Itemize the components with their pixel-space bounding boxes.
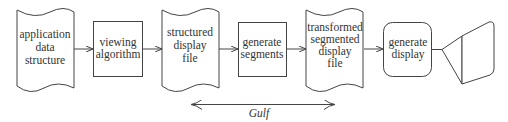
gulf-indicator: Gulf — [191, 105, 335, 121]
node-label-line: file — [327, 57, 342, 69]
node-label-line: structured — [167, 26, 213, 38]
node-label-line: file — [182, 52, 197, 64]
node-application-data-structure: application data structure — [17, 9, 74, 92]
node-label-line: transformed — [307, 21, 363, 33]
node-label-line: algorithm — [96, 48, 141, 61]
node-label-line: application — [19, 28, 70, 41]
node-label-line: display — [391, 48, 424, 61]
node-label-line: structure — [25, 54, 65, 66]
node-label-line: data — [35, 41, 54, 53]
node-generate-display: generate display — [384, 23, 432, 77]
node-structured-display-file: structured display file — [162, 9, 219, 92]
node-label-line: display — [173, 39, 206, 52]
node-label-line: segments — [241, 48, 284, 61]
display-monitor-icon — [442, 22, 494, 84]
pipeline-diagram: application data structure viewing algor… — [0, 0, 508, 122]
node-viewing-algorithm: viewing algorithm — [94, 22, 143, 77]
gulf-label: Gulf — [249, 107, 271, 120]
node-transformed-segmented-display-file: transformed segmented display file — [306, 9, 363, 92]
node-generate-segments: generate segments — [239, 23, 287, 77]
